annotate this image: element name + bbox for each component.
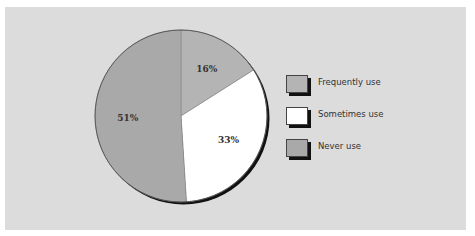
legend-label: Frequently use bbox=[318, 77, 381, 87]
legend-label: Never use bbox=[318, 141, 361, 151]
slice-value-label: 16% bbox=[196, 64, 217, 74]
slice-value-label: 33% bbox=[218, 135, 239, 145]
pie-chart bbox=[0, 0, 475, 236]
legend-swatch-sometimes-use bbox=[286, 107, 308, 125]
legend-swatch-never-use bbox=[286, 139, 308, 157]
legend-label: Sometimes use bbox=[318, 109, 384, 119]
slice-value-label: 51% bbox=[117, 113, 138, 123]
pie-slice-never-use bbox=[95, 30, 186, 202]
legend-swatch-frequently-use bbox=[286, 75, 308, 93]
